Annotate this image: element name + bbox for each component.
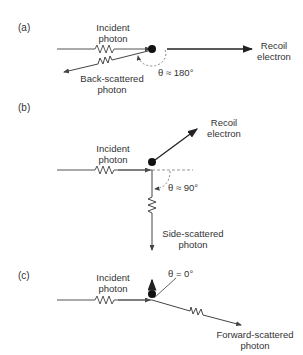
label-line: electron — [200, 128, 248, 139]
label-line: Incident — [88, 143, 138, 154]
electron-dot — [148, 158, 156, 166]
angle-pointer-line — [154, 278, 176, 298]
label-line: photon — [215, 340, 295, 351]
recoil-electron-label: Recoil electron — [250, 40, 298, 62]
incident-photon-label: Incident photon — [88, 143, 138, 165]
panel-label-b: (b) — [18, 102, 30, 113]
incident-photon-label: Incident photon — [88, 22, 138, 44]
label-line: Recoil — [250, 40, 298, 51]
incident-photon-path — [57, 45, 150, 53]
label-line: Incident — [88, 272, 138, 283]
side-scattered-photon-path — [148, 170, 156, 250]
panel-label-c: (c) — [18, 270, 30, 281]
label-line: Back-scattered — [72, 73, 152, 84]
panel-label-a: (a) — [18, 22, 30, 33]
angle-label: θ ≈ 90° — [168, 182, 198, 193]
label-line: photon — [88, 154, 138, 165]
panel-c — [57, 278, 241, 325]
forward-scattered-photon-label: Forward-scattered photon — [215, 329, 295, 351]
recoil-electron-arrow — [155, 129, 197, 160]
panel-a — [57, 45, 252, 72]
label-line: photon — [88, 33, 138, 44]
side-scattered-photon-label: Side-scattered photon — [158, 228, 228, 250]
angle-label: θ = 0° — [168, 268, 193, 279]
label-line: electron — [250, 51, 298, 62]
incident-photon-label: Incident photon — [88, 272, 138, 294]
label-line: Incident — [88, 22, 138, 33]
label-line: Side-scattered — [158, 228, 228, 239]
electron-dot — [148, 45, 156, 53]
angle-label: θ ≈ 180° — [158, 67, 193, 78]
label-line: Forward-scattered — [215, 329, 295, 340]
label-line: photon — [88, 283, 138, 294]
forward-scattered-photon-path — [152, 300, 241, 325]
back-scattered-photon-label: Back-scattered photon — [72, 73, 152, 95]
label-line: photon — [158, 239, 228, 250]
label-line: photon — [72, 84, 152, 95]
recoil-electron-label: Recoil electron — [200, 117, 248, 139]
label-line: Recoil — [200, 117, 248, 128]
